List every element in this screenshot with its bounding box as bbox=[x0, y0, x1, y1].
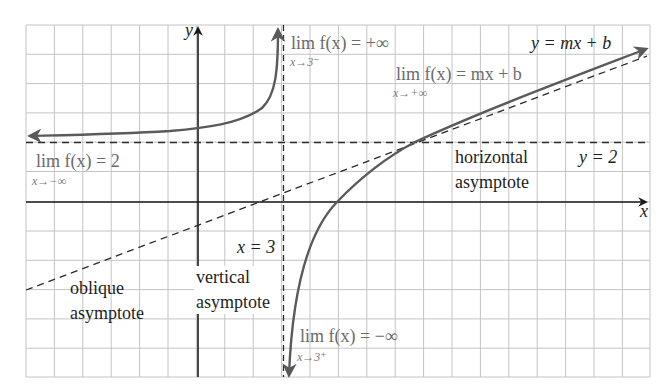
asymptote-diagram: y x y = mx + b lim f(x) = +∞ x→3⁻ lim f(… bbox=[0, 0, 667, 392]
vertical-asymptote-text-2: asymptote bbox=[196, 292, 270, 312]
limit-minus-infinity-subscript: x→3⁺ bbox=[296, 350, 327, 364]
left-branch bbox=[30, 30, 278, 136]
oblique-asymptote-line bbox=[26, 56, 647, 290]
oblique-asymptote-text-1: oblique bbox=[70, 278, 124, 298]
limit-plus-infinity-label: lim f(x) = +∞ bbox=[291, 33, 389, 54]
limit-oblique-label: lim f(x) = mx + b bbox=[396, 64, 522, 85]
limit-plus-infinity-subscript: x→3⁻ bbox=[289, 55, 320, 69]
limit-two-label: lim f(x) = 2 bbox=[36, 151, 120, 172]
limit-two-subscript: x→−∞ bbox=[31, 174, 66, 188]
y-axis-label: y bbox=[183, 20, 193, 40]
limit-oblique-subscript: x→+∞ bbox=[392, 86, 427, 100]
oblique-equation-label: y = mx + b bbox=[529, 33, 611, 53]
horizontal-equation-label: y = 2 bbox=[577, 147, 617, 167]
limit-minus-infinity-label: lim f(x) = −∞ bbox=[300, 326, 398, 347]
horizontal-asymptote-text-2: asymptote bbox=[455, 172, 529, 192]
horizontal-asymptote-text-1: horizontal bbox=[455, 147, 528, 167]
vertical-equation-label: x = 3 bbox=[236, 237, 275, 257]
oblique-asymptote-text-2: asymptote bbox=[70, 303, 144, 323]
vertical-asymptote-text-1: vertical bbox=[196, 267, 250, 287]
x-axis-label: x bbox=[639, 201, 648, 221]
